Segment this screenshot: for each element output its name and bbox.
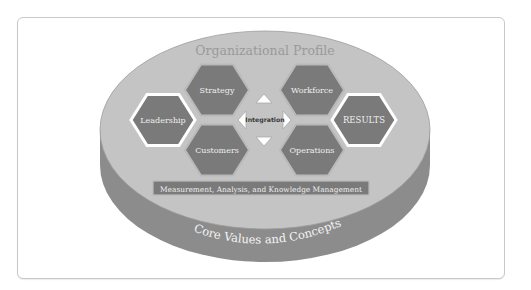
- hexagon-label: Operations: [290, 146, 335, 155]
- hexagon-results: RESULTS: [332, 95, 396, 146]
- hexagon-label: RESULTS: [343, 115, 385, 125]
- hexagon-label: Leadership: [140, 116, 185, 125]
- hexagon-label: Workforce: [291, 86, 333, 95]
- hexagon-label: Strategy: [200, 86, 235, 95]
- hexagon-leadership: Leadership: [131, 95, 195, 146]
- measurement-bar-label: Measurement, Analysis, and Knowledge Man…: [160, 185, 362, 194]
- hexagon-label: Customers: [195, 146, 239, 155]
- baldrige-framework-diagram: Organizational Profile LeadershipStrateg…: [0, 0, 531, 290]
- diagram-title: Organizational Profile: [195, 43, 334, 58]
- integration-label: Integration: [245, 116, 284, 124]
